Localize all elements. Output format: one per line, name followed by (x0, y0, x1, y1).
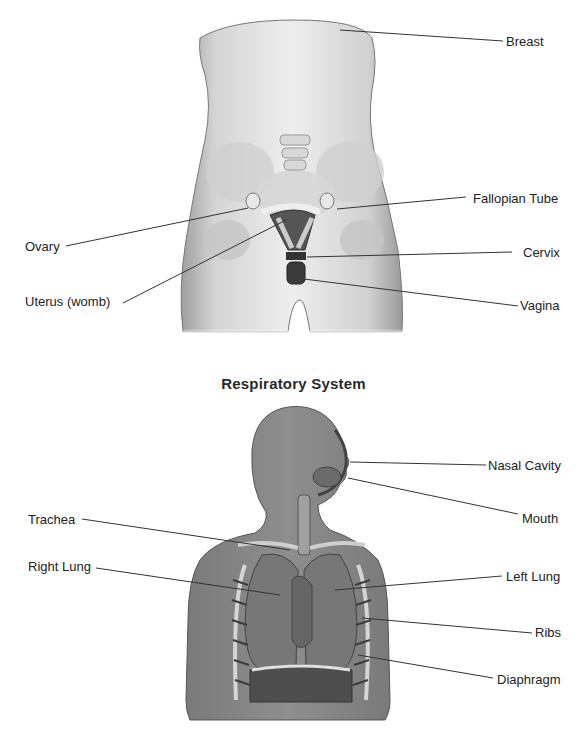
label-ovary: Ovary (25, 239, 60, 254)
respiratory-system-title: Respiratory System (0, 375, 587, 392)
label-nasal-cavity: Nasal Cavity (488, 458, 561, 473)
label-ribs: Ribs (535, 625, 561, 640)
label-vagina: Vagina (520, 298, 560, 313)
label-right-lung: Right Lung (28, 559, 91, 574)
label-uterus: Uterus (womb) (25, 294, 110, 309)
label-trachea: Trachea (28, 512, 75, 527)
label-cervix: Cervix (523, 245, 560, 260)
reproductive-illustration (0, 0, 587, 742)
label-fallopian-tube: Fallopian Tube (473, 191, 558, 206)
label-breast: Breast (506, 34, 544, 49)
label-diaphragm: Diaphragm (497, 672, 561, 687)
respiratory-figure (183, 406, 393, 723)
label-left-lung: Left Lung (506, 569, 560, 584)
label-mouth: Mouth (522, 511, 558, 526)
